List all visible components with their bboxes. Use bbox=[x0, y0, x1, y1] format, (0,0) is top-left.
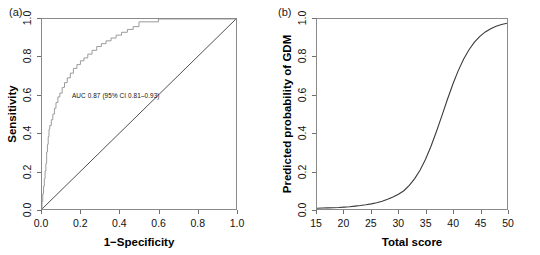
panel-predicted-probability: (b) 1520253035404550 0.00.20.40.60.81.0 … bbox=[270, 0, 540, 255]
panel-b-plot-area bbox=[317, 19, 507, 209]
x-tick-label: 1.0 bbox=[230, 217, 245, 229]
auc-annotation: AUC 0.87 (95% CI 0.81–0.93) bbox=[72, 92, 160, 99]
y-tick-label: 1.0 bbox=[296, 11, 308, 26]
y-tick-mark bbox=[312, 172, 316, 173]
x-tick-mark bbox=[398, 210, 399, 214]
y-tick-mark bbox=[312, 133, 316, 134]
panel-b-x-axis-title: Total score bbox=[382, 236, 443, 248]
x-tick-mark bbox=[481, 210, 482, 214]
y-tick-mark bbox=[37, 18, 41, 19]
y-tick-label: 1.0 bbox=[21, 11, 33, 26]
panel-b-plot-frame bbox=[316, 18, 508, 210]
y-tick-label: 0.4 bbox=[21, 126, 33, 141]
y-tick-mark bbox=[312, 56, 316, 57]
x-tick-label: 0.0 bbox=[34, 217, 49, 229]
panel-roc-curve: (a) 0.00.20.40.60.81.0 0.00.20.40.60.81.… bbox=[0, 0, 270, 255]
y-tick-label: 0.6 bbox=[21, 87, 33, 102]
y-tick-mark bbox=[312, 18, 316, 19]
panel-a-y-axis-title: Sensitivity bbox=[6, 85, 18, 143]
x-tick-label: 0.8 bbox=[190, 217, 205, 229]
x-tick-label: 30 bbox=[392, 217, 404, 229]
y-tick-mark bbox=[37, 210, 41, 211]
reference-diagonal-line bbox=[42, 19, 236, 209]
x-tick-label: 0.2 bbox=[73, 217, 88, 229]
panel-a-x-axis-title: 1−Specificity bbox=[104, 236, 175, 248]
y-tick-mark bbox=[312, 95, 316, 96]
x-tick-mark bbox=[371, 210, 372, 214]
y-tick-label: 0.2 bbox=[296, 164, 308, 179]
y-tick-mark bbox=[37, 172, 41, 173]
panel-b-label: (b) bbox=[278, 6, 291, 18]
y-tick-label: 0.8 bbox=[21, 49, 33, 64]
panel-a-plot-frame bbox=[41, 18, 237, 210]
x-tick-mark bbox=[343, 210, 344, 214]
roc-curve-svg bbox=[42, 19, 236, 209]
y-tick-mark bbox=[312, 210, 316, 211]
y-tick-mark bbox=[37, 133, 41, 134]
x-tick-mark bbox=[237, 210, 238, 214]
y-tick-mark bbox=[37, 56, 41, 57]
x-tick-label: 15 bbox=[310, 217, 322, 229]
x-tick-label: 45 bbox=[475, 217, 487, 229]
x-tick-label: 20 bbox=[338, 217, 350, 229]
x-tick-mark bbox=[316, 210, 317, 214]
figure-root: (a) 0.00.20.40.60.81.0 0.00.20.40.60.81.… bbox=[0, 0, 540, 255]
x-tick-mark bbox=[426, 210, 427, 214]
x-tick-mark bbox=[198, 210, 199, 214]
x-tick-mark bbox=[159, 210, 160, 214]
y-tick-label: 0.6 bbox=[296, 87, 308, 102]
x-tick-label: 50 bbox=[502, 217, 514, 229]
predicted-probability-line bbox=[317, 23, 507, 208]
x-tick-label: 25 bbox=[365, 217, 377, 229]
x-tick-label: 35 bbox=[420, 217, 432, 229]
x-tick-label: 40 bbox=[447, 217, 459, 229]
y-tick-label: 0.0 bbox=[296, 203, 308, 218]
y-tick-label: 0.0 bbox=[21, 203, 33, 218]
x-tick-mark bbox=[453, 210, 454, 214]
y-tick-label: 0.2 bbox=[21, 164, 33, 179]
x-tick-mark bbox=[80, 210, 81, 214]
x-tick-mark bbox=[119, 210, 120, 214]
y-tick-label: 0.8 bbox=[296, 49, 308, 64]
y-tick-mark bbox=[37, 95, 41, 96]
x-tick-mark bbox=[508, 210, 509, 214]
panel-b-y-axis-title: Predicted probability of GDM bbox=[281, 35, 293, 193]
x-tick-mark bbox=[41, 210, 42, 214]
y-tick-label: 0.4 bbox=[296, 126, 308, 141]
x-tick-label: 0.4 bbox=[112, 217, 127, 229]
panel-a-plot-area bbox=[42, 19, 236, 209]
x-tick-label: 0.6 bbox=[151, 217, 166, 229]
probability-curve-svg bbox=[317, 19, 507, 209]
